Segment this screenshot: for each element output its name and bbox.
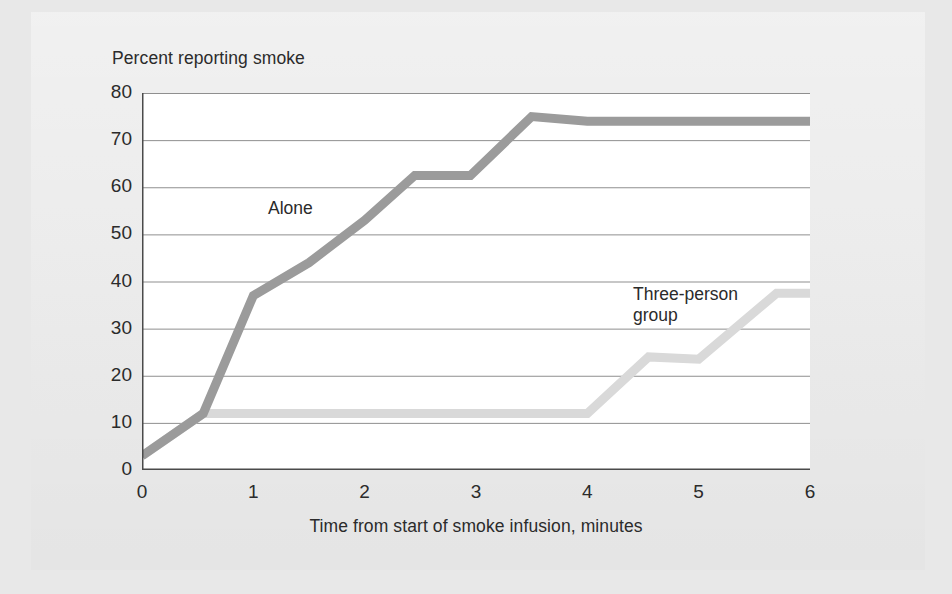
chart-canvas: [142, 93, 810, 470]
figure-page: Percent reporting smoke 0102030405060708…: [0, 0, 952, 594]
y-tick-label: 60: [88, 175, 132, 197]
y-tick-label: 20: [88, 364, 132, 386]
y-tick-label: 10: [88, 411, 132, 433]
y-tick-label: 40: [88, 270, 132, 292]
x-tick-label: 1: [233, 481, 273, 503]
y-tick-label: 0: [88, 458, 132, 480]
y-tick-label: 70: [88, 128, 132, 150]
x-tick-label: 4: [567, 481, 607, 503]
series-label-alone: Alone: [268, 198, 313, 219]
x-tick-label: 3: [456, 481, 496, 503]
y-tick-label: 50: [88, 222, 132, 244]
plot-area: [142, 93, 810, 470]
x-tick-label: 5: [679, 481, 719, 503]
x-tick-label: 6: [790, 481, 830, 503]
y-axis-title: Percent reporting smoke: [112, 48, 305, 69]
gridlines: [142, 94, 810, 424]
y-tick-label: 30: [88, 317, 132, 339]
x-axis-title: Time from start of smoke infusion, minut…: [0, 516, 952, 537]
series-label-three-person-group: Three-person group: [633, 284, 738, 327]
y-tick-label: 80: [88, 81, 132, 103]
x-tick-label: 2: [345, 481, 385, 503]
x-tick-label: 0: [122, 481, 162, 503]
